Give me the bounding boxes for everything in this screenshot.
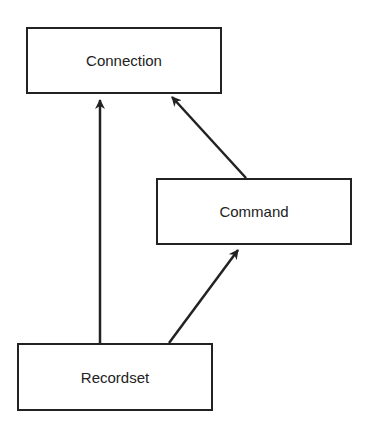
node-connection: Connection [26,27,222,94]
node-label: Command [219,203,288,220]
node-command: Command [156,178,352,245]
diagram-canvas: Connection Command Recordset [0,0,374,426]
node-label: Recordset [81,369,149,386]
node-label: Connection [86,52,162,69]
node-recordset: Recordset [17,343,213,411]
edge-command-to-connection [172,97,246,178]
edge-recordset-to-command [169,250,238,343]
